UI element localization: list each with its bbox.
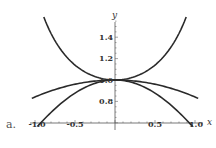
x-axis-label: x: [207, 117, 212, 127]
x-tick-label: -1.0: [28, 119, 46, 129]
y-tick-label: 1.2: [99, 53, 113, 63]
panel-label: a.: [6, 118, 16, 131]
y-tick-label: 1.4: [99, 32, 113, 42]
chart: x y a. -1.0 -0.5 0.5 1.0 0.8 1.0 1.2 1.4: [0, 0, 216, 148]
x-tick-label: 1.0: [189, 119, 203, 129]
x-tick-label: -0.5: [66, 119, 83, 129]
x-tick-label: 0.5: [148, 119, 162, 129]
y-tick-label: 1.0: [99, 75, 113, 85]
y-axis-label: y: [111, 10, 118, 20]
y-tick-label: 0.8: [99, 96, 113, 106]
